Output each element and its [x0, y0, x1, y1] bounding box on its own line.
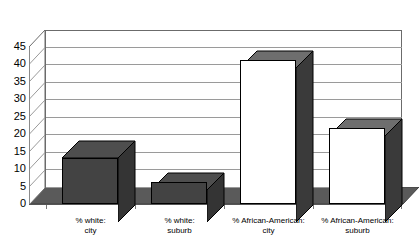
y-axis-line: [29, 47, 30, 205]
x-tick-0: [46, 205, 47, 209]
x-category-label-2: % African-American: city: [224, 216, 313, 236]
x-category-label-0-line1: % white:: [75, 216, 105, 225]
x-category-label-0-line2: city: [46, 226, 135, 236]
bar-white-city[interactable]: [62, 30, 118, 204]
x-category-label-1-line2: suburb: [135, 226, 224, 236]
y-tick-label-40: 40: [0, 58, 26, 69]
chart-side-wall: [29, 29, 46, 205]
x-category-label-0: % white: city: [46, 216, 135, 236]
y-tick-label-35: 35: [0, 76, 26, 87]
y-axis: 45 40 35 30 25 20 15 10 5 0: [0, 0, 26, 248]
y-tick-label-25: 25: [0, 111, 26, 122]
x-category-label-1: % white: suburb: [135, 216, 224, 236]
x-category-label-3-line1: % African-American:: [321, 216, 393, 225]
x-category-label-3: % African-American: suburb: [313, 216, 402, 236]
x-category-label-1-line1: % white:: [164, 216, 194, 225]
bar-white-suburb[interactable]: [151, 30, 207, 204]
y-tick-label-0: 0: [0, 198, 26, 209]
y-tick-label-10: 10: [0, 163, 26, 174]
y-tick-label-20: 20: [0, 128, 26, 139]
bar-front-face: [151, 182, 207, 204]
y-tick-label-45: 45: [0, 41, 26, 52]
y-tick-label-30: 30: [0, 93, 26, 104]
bar-african-american-city[interactable]: [240, 30, 296, 204]
x-category-label-3-line2: suburb: [313, 226, 402, 236]
bar-african-american-suburb[interactable]: [329, 30, 385, 204]
bar-front-face: [329, 128, 385, 204]
bar-front-face: [62, 158, 118, 204]
y-tick-label-15: 15: [0, 146, 26, 157]
x-category-label-2-line2: city: [224, 226, 313, 236]
x-category-label-2-line1: % African-American:: [232, 216, 304, 225]
bar-front-face: [240, 60, 296, 204]
y-tick-label-5: 5: [0, 181, 26, 192]
